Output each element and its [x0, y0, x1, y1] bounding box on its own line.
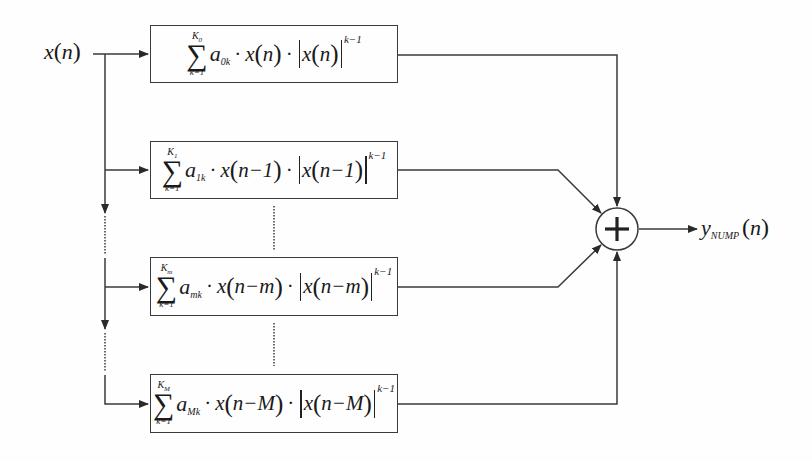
branch-box-1: K1 ∑ k=1 a1k ·x(n−1)·x(n−1)k−1	[150, 141, 398, 199]
input-label: x(n)	[44, 38, 81, 65]
connection-wires	[0, 0, 812, 461]
input-var: x	[44, 39, 54, 64]
summation-icon: K0 ∑ k=1	[186, 31, 207, 78]
input-arrow-branch-M	[105, 375, 148, 404]
branch-formula-1: K1 ∑ k=1 a1k ·x(n−1)·x(n−1)k−1	[162, 147, 387, 194]
summation-icon: K1 ∑ k=1	[162, 147, 183, 194]
branch-0-to-sum	[397, 55, 617, 206]
branch-formula-m: Km ∑ k=1 amk ·x(n−m)·x(n−m)k−1	[156, 263, 392, 310]
branch-box-M: KM ∑ k=1 aMk ·x(n−M)·x(n−M)k−1	[150, 374, 398, 433]
branch-M-to-sum	[397, 252, 617, 404]
output-subscript: NUMP	[711, 230, 739, 241]
summation-icon: KM ∑ k=1	[153, 380, 174, 427]
diagram-canvas: x(n) yNUMP(n) K0 ∑ k=1 a0k ·x(n)·x(n)k−1…	[0, 0, 812, 461]
branch-box-0: K0 ∑ k=1 a0k ·x(n)·x(n)k−1	[150, 25, 398, 83]
output-var: y	[701, 215, 711, 240]
branch-box-m: Km ∑ k=1 amk ·x(n−m)·x(n−m)k−1	[150, 257, 398, 316]
output-arg: n	[750, 215, 761, 240]
summation-icon: Km ∑ k=1	[156, 263, 177, 310]
branch-m-to-sum	[397, 245, 601, 287]
branch-formula-0: K0 ∑ k=1 a0k ·x(n)·x(n)k−1	[186, 31, 361, 78]
branch-1-to-sum	[397, 170, 601, 213]
branch-formula-M: KM ∑ k=1 aMk ·x(n−M)·x(n−M)k−1	[153, 380, 395, 427]
output-label: yNUMP(n)	[701, 214, 769, 241]
input-arg: n	[62, 39, 73, 64]
